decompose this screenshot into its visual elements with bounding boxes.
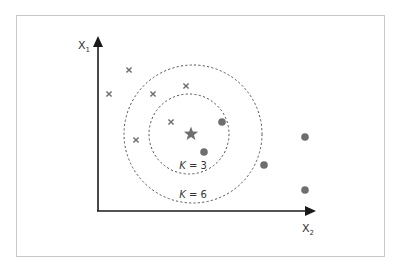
dot-point-icon [218,118,226,126]
y-axis-arrow-icon [93,36,103,47]
dot-point-icon [301,133,309,141]
cross-point-icon [150,91,155,96]
cross-point-icon [126,67,131,72]
knn-diagram: K = 3K = 6 X1 X2 [0,0,400,273]
cross-point-icon [183,83,188,88]
dot-point-icon [200,148,208,156]
y-axis-label: X1 [78,39,90,54]
k-label: K = 3 [179,160,207,171]
query-star-icon [184,127,198,141]
cross-point-icon [168,119,173,124]
points-layer [106,67,308,193]
dot-point-icon [301,186,309,194]
cross-point-icon [106,91,111,96]
x-axis-arrow-icon [305,206,316,216]
dot-point-icon [260,161,268,169]
k-label: K = 6 [179,189,207,200]
x-axis-label: X2 [302,222,314,237]
cross-point-icon [133,137,138,142]
